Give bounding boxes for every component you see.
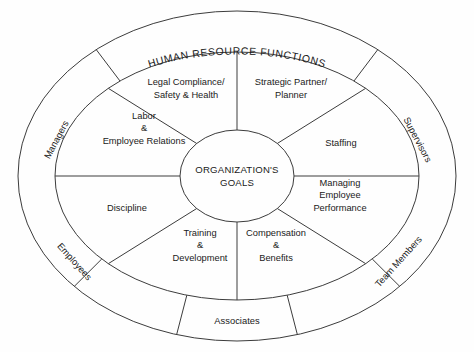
inner-sector-label-line: Training (183, 228, 216, 238)
hr-wheel-diagram: HUMAN RESOURCE FUNCTIONS Managers Superv… (0, 0, 474, 352)
inner-sector-label-line: Development (173, 253, 228, 263)
inner-sector-label-line: Safety & Health (154, 90, 219, 100)
inner-sector-label-line: Managing (320, 178, 361, 188)
outer-label-team-members: Team Members (373, 233, 425, 289)
inner-sector-label-line: Labor (132, 111, 156, 121)
inner-wheel-dividers (55, 52, 419, 300)
outer-ring-labels: Managers Supervisors Team Members Associ… (41, 115, 434, 326)
inner-sector-label-line: Employee (319, 190, 360, 200)
inner-sector-label-line: & (197, 240, 204, 250)
outer-ring-divider-3 (287, 295, 297, 334)
inner-sector-discipline: Discipline (107, 203, 147, 213)
outer-ring-divider-4 (177, 295, 187, 334)
inner-sector-label-line: & (141, 123, 148, 133)
inner-sector-label-line: Planner (275, 90, 307, 100)
outer-ring-divider-0 (96, 50, 120, 81)
center-label: ORGANIZATION'S GOALS (195, 164, 278, 188)
inner-sector-label-line: Strategic Partner/ (255, 77, 328, 87)
inner-sector-training-development: Training&Development (173, 228, 228, 262)
center-label-line2: GOALS (220, 177, 254, 188)
outer-label-supervisors: Supervisors (401, 115, 434, 164)
outer-ring-divider-1 (354, 50, 378, 81)
inner-sector-compensation-benefits: Compensation&Benefits (246, 228, 306, 262)
inner-sector-label-line: Performance (313, 203, 366, 213)
outer-label-associates: Associates (214, 315, 260, 326)
outer-label-managers: Managers (41, 118, 70, 160)
center-label-line1: ORGANIZATION'S (195, 164, 278, 175)
inner-sector-staffing: Staffing (325, 138, 356, 148)
inner-sector-label-line: & (273, 240, 280, 250)
inner-sector-label-line: Legal Compliance/ (147, 77, 224, 87)
inner-sector-label-line: Compensation (246, 228, 306, 238)
inner-sector-label-line: Employee Relations (103, 136, 186, 146)
inner-sector-label-line: Discipline (107, 203, 147, 213)
inner-sector-strategic-partner-planner: Strategic Partner/Planner (255, 77, 328, 99)
inner-sector-label-line: Benefits (259, 253, 293, 263)
outer-label-employees: Employees (55, 240, 94, 282)
wheel-svg: HUMAN RESOURCE FUNCTIONS Managers Superv… (0, 0, 474, 352)
inner-sector-managing-employee-performance: ManagingEmployeePerformance (313, 178, 366, 212)
inner-sector-label-line: Staffing (325, 138, 356, 148)
center-ellipse (180, 130, 294, 222)
inner-sector-legal-compliance-safety-health: Legal Compliance/Safety & Health (147, 77, 224, 99)
